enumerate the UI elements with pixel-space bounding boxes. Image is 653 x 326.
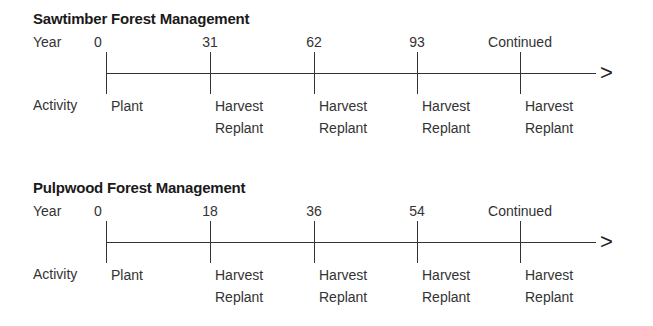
year-label: 18 xyxy=(202,203,218,219)
activity-line: Harvest xyxy=(215,264,263,286)
activity-label: HarvestReplant xyxy=(215,95,263,139)
activity-line: Replant xyxy=(215,286,263,308)
year-label: 62 xyxy=(306,34,322,50)
panel-title: Sawtimber Forest Management xyxy=(33,10,249,27)
activity-label: HarvestReplant xyxy=(319,264,367,308)
activity-line: Harvest xyxy=(422,264,470,286)
activity-label: HarvestReplant xyxy=(422,264,470,308)
year-label: 36 xyxy=(306,203,322,219)
activity-label: HarvestReplant xyxy=(319,95,367,139)
year-label: Continued xyxy=(488,203,552,219)
activity-label: HarvestReplant xyxy=(215,264,263,308)
activity-line: Harvest xyxy=(422,95,470,117)
tick-mark xyxy=(417,52,418,94)
tick-mark xyxy=(314,221,315,263)
year-label: 93 xyxy=(409,34,425,50)
activity-line: Harvest xyxy=(319,264,367,286)
year-row-label: Year xyxy=(33,203,61,219)
year-label: Continued xyxy=(488,34,552,50)
activity-label: HarvestReplant xyxy=(525,264,573,308)
tick-mark xyxy=(210,221,211,263)
activity-line: Replant xyxy=(422,117,470,139)
activity-row-label: Activity xyxy=(33,266,77,282)
tick-mark xyxy=(520,52,521,94)
activity-line: Harvest xyxy=(319,95,367,117)
arrow-right-icon: > xyxy=(600,231,613,253)
timeline-axis xyxy=(106,73,596,74)
activity-label: HarvestReplant xyxy=(422,95,470,139)
tick-mark xyxy=(106,52,107,94)
activity-line: Replant xyxy=(422,286,470,308)
activity-line: Replant xyxy=(215,117,263,139)
activity-line: Replant xyxy=(525,286,573,308)
activity-line: Replant xyxy=(319,117,367,139)
pulpwood-timeline: Pulpwood Forest ManagementYearActivity>0… xyxy=(0,169,653,319)
activity-line: Plant xyxy=(111,95,143,117)
year-label: 0 xyxy=(94,34,102,50)
tick-mark xyxy=(520,221,521,263)
activity-line: Harvest xyxy=(525,95,573,117)
activity-line: Plant xyxy=(111,264,143,286)
activity-line: Replant xyxy=(525,117,573,139)
arrow-right-icon: > xyxy=(600,62,613,84)
activity-label: Plant xyxy=(111,95,143,117)
panel-title: Pulpwood Forest Management xyxy=(33,179,245,196)
year-label: 31 xyxy=(202,34,218,50)
activity-line: Harvest xyxy=(525,264,573,286)
tick-mark xyxy=(314,52,315,94)
tick-mark xyxy=(106,221,107,263)
year-row-label: Year xyxy=(33,34,61,50)
tick-mark xyxy=(210,52,211,94)
activity-line: Harvest xyxy=(215,95,263,117)
timeline-axis xyxy=(106,242,596,243)
activity-row-label: Activity xyxy=(33,97,77,113)
sawtimber-timeline: Sawtimber Forest ManagementYearActivity>… xyxy=(0,0,653,150)
year-label: 54 xyxy=(409,203,425,219)
year-label: 0 xyxy=(94,203,102,219)
activity-line: Replant xyxy=(319,286,367,308)
activity-label: HarvestReplant xyxy=(525,95,573,139)
activity-label: Plant xyxy=(111,264,143,286)
tick-mark xyxy=(417,221,418,263)
